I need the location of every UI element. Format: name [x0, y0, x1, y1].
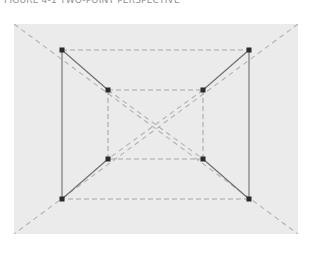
vertex-marker-front-bottom-right [247, 197, 252, 202]
connecting-edge-top-left [62, 50, 108, 90]
figure-panel [14, 24, 298, 234]
vertex-marker-back-bottom-left [106, 157, 111, 162]
connecting-edge-bottom-right [203, 159, 249, 199]
diagonal-guide-group [14, 24, 298, 234]
vertex-marker-back-top-left [106, 88, 111, 93]
back-face-diagonal-group [108, 90, 203, 159]
vertex-marker-front-bottom-left [60, 197, 65, 202]
connecting-edge-top-right [203, 50, 249, 90]
figure-caption: FIGURE 4-1 TWO-POINT PERSPECTIVE [4, 0, 180, 6]
figure-page: FIGURE 4-1 TWO-POINT PERSPECTIVE [0, 0, 313, 255]
vertex-marker-front-top-left [60, 48, 65, 53]
vertex-marker-front-top-right [247, 48, 252, 53]
vertex-marker-back-top-right [201, 88, 206, 93]
caption-strip: FIGURE 4-1 TWO-POINT PERSPECTIVE [0, 0, 313, 9]
vertex-marker-back-bottom-right [201, 157, 206, 162]
perspective-box-svg [14, 24, 298, 234]
connecting-edge-bottom-left [62, 159, 108, 199]
